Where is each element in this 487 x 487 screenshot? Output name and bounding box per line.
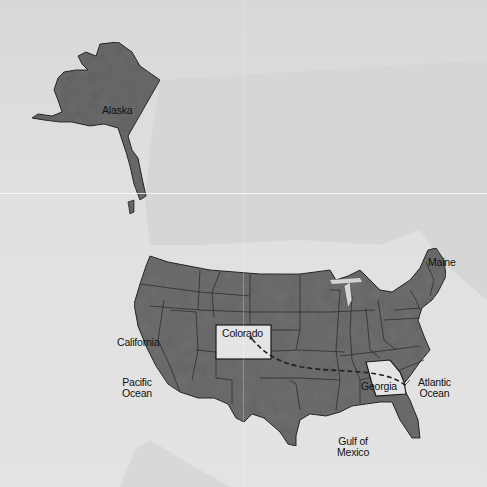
map-fold-line-vertical: [243, 0, 244, 487]
label-colorado: Colorado: [222, 328, 263, 339]
label-gulf-line2: Mexico: [337, 447, 369, 458]
label-georgia: Georgia: [361, 381, 397, 392]
label-pacific-ocean: Pacific Ocean: [122, 377, 152, 399]
label-atlantic-line2: Ocean: [418, 388, 451, 399]
mexico-landmass: [120, 440, 230, 487]
label-california: California: [117, 337, 159, 348]
us-map: Alaska Maine California Colorado Georgia…: [0, 0, 487, 487]
label-maine: Maine: [428, 257, 456, 268]
label-alaska: Alaska: [102, 105, 132, 116]
label-gulf-of-mexico: Gulf of Mexico: [337, 436, 369, 458]
label-atlantic-ocean: Atlantic Ocean: [418, 377, 451, 399]
alaska-shape: [32, 42, 160, 214]
label-pacific-line2: Ocean: [122, 388, 152, 399]
contiguous-us-shape: [134, 248, 446, 446]
